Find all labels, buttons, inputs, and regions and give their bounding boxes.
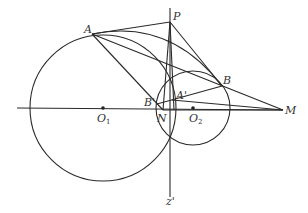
line-pn [163, 22, 170, 110]
label-z-prime: z' [165, 195, 175, 208]
line-ab-m [92, 34, 283, 110]
label-m: M [284, 104, 297, 117]
center-dot-o1 [101, 106, 105, 110]
label-o2: O2 [189, 112, 203, 126]
geometry-diagram: A P B M N B' A' O1 O2 z' [0, 0, 308, 213]
label-n: N [156, 112, 167, 125]
label-b: B [222, 74, 231, 87]
label-a: A [83, 23, 92, 36]
line-a1-m [172, 100, 283, 110]
label-a-prime: A' [175, 89, 187, 102]
label-p: P [172, 10, 181, 23]
label-b-prime: B' [143, 96, 155, 109]
center-dot-o2 [191, 106, 195, 110]
label-o1: O1 [97, 112, 111, 126]
